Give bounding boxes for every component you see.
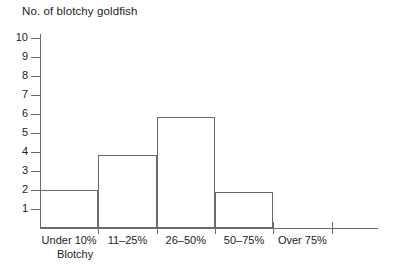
x-tick-mark xyxy=(273,222,274,234)
y-tick-mark xyxy=(31,171,40,172)
x-axis-title: Blotchy xyxy=(57,248,93,260)
y-tick-label: 3 xyxy=(2,164,28,176)
y-tick-label: 2 xyxy=(2,183,28,195)
y-tick-label: 5 xyxy=(2,126,28,138)
histogram-chart: No. of blotchy goldfish 12345678910 Unde… xyxy=(0,0,397,278)
y-tick-mark xyxy=(31,133,40,134)
bar-26-50- xyxy=(157,117,215,228)
x-tick-label: Over 75% xyxy=(278,234,327,246)
y-tick-mark xyxy=(31,95,40,96)
y-tick-label: 4 xyxy=(2,145,28,157)
x-tick-label: Under 10% xyxy=(42,234,97,246)
y-tick-mark xyxy=(31,209,40,210)
y-tick-mark xyxy=(31,190,40,191)
bar-under-10- xyxy=(40,190,98,228)
bar-50-75- xyxy=(215,192,273,228)
y-tick-mark xyxy=(31,76,40,77)
x-tick-label: 11–25% xyxy=(108,234,148,246)
x-tick-label: 50–75% xyxy=(224,234,264,246)
y-tick-label: 10 xyxy=(2,31,28,43)
y-tick-mark xyxy=(31,57,40,58)
x-tick-label: 26–50% xyxy=(166,234,206,246)
x-axis-line xyxy=(40,228,378,229)
y-tick-mark xyxy=(31,38,40,39)
x-tick-mark xyxy=(332,222,333,234)
bar-11-25- xyxy=(98,155,156,228)
y-tick-label: 6 xyxy=(2,107,28,119)
plot-area: 12345678910 Under 10%11–25%26–50%50–75%O… xyxy=(0,0,397,278)
y-tick-label: 8 xyxy=(2,69,28,81)
y-tick-mark xyxy=(31,114,40,115)
y-tick-label: 1 xyxy=(2,202,28,214)
y-tick-mark xyxy=(31,152,40,153)
y-tick-label: 9 xyxy=(2,50,28,62)
y-tick-label: 7 xyxy=(2,88,28,100)
